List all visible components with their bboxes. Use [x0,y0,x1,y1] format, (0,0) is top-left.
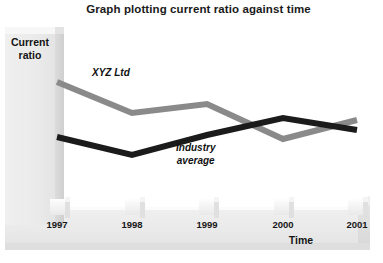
series-line-xyz-ltd [57,82,357,139]
chart-container: Graph plotting current ratio against tim… [0,0,383,263]
plot-area [0,0,383,263]
series-label-industry-average: Industry average [176,142,215,167]
series-label-xyz-ltd: XYZ Ltd [92,67,130,80]
